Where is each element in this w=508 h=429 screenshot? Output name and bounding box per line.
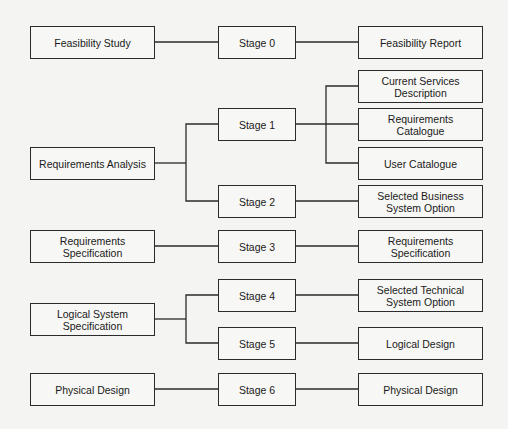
box-label: Physical Design — [55, 384, 130, 396]
box-label: Stage 4 — [239, 290, 275, 302]
stage-5-box: Stage 5 — [218, 327, 296, 360]
output-physical-design: Physical Design — [358, 373, 483, 406]
box-label: Logical System Specification — [57, 308, 128, 332]
output-current-services-description: Current Services Description — [358, 70, 483, 103]
stage-3-box: Stage 3 — [218, 230, 296, 263]
box-label: Stage 2 — [239, 196, 275, 208]
box-label: Stage 6 — [239, 384, 275, 396]
input-requirements-analysis: Requirements Analysis — [30, 147, 155, 180]
box-label: Requirements Specification — [388, 235, 453, 259]
box-label: Feasibility Study — [54, 37, 130, 49]
box-label: Stage 3 — [239, 241, 275, 253]
box-label: Stage 5 — [239, 338, 275, 350]
output-selected-business-system-option: Selected Business System Option — [358, 185, 483, 218]
box-label: Stage 1 — [239, 119, 275, 131]
stage-2-box: Stage 2 — [218, 185, 296, 218]
connector-lss-stages — [186, 295, 218, 343]
box-label: Logical Design — [386, 338, 455, 350]
box-label: Selected Technical System Option — [377, 284, 464, 308]
box-label: User Catalogue — [384, 158, 457, 170]
connector-reqanalysis-stages — [186, 124, 218, 201]
output-requirements-specification: Requirements Specification — [358, 230, 483, 263]
output-requirements-catalogue: Requirements Catalogue — [358, 108, 483, 141]
stage-1-box: Stage 1 — [218, 108, 296, 141]
box-label: Physical Design — [383, 384, 458, 396]
output-logical-design: Logical Design — [358, 327, 483, 360]
box-label: Selected Business System Option — [377, 190, 463, 214]
box-label: Current Services Description — [381, 75, 459, 99]
box-label: Requirements Specification — [60, 235, 125, 259]
output-selected-technical-system-option: Selected Technical System Option — [358, 279, 483, 312]
input-feasibility-study: Feasibility Study — [30, 26, 155, 59]
box-label: Requirements Analysis — [39, 158, 146, 170]
output-feasibility-report: Feasibility Report — [358, 26, 483, 59]
stage-0-box: Stage 0 — [218, 26, 296, 59]
input-requirements-specification: Requirements Specification — [30, 230, 155, 263]
output-user-catalogue: User Catalogue — [358, 147, 483, 180]
input-physical-design: Physical Design — [30, 373, 155, 406]
stage-6-box: Stage 6 — [218, 373, 296, 406]
stage-4-box: Stage 4 — [218, 279, 296, 312]
box-label: Stage 0 — [239, 37, 275, 49]
input-logical-system-specification: Logical System Specification — [30, 303, 155, 336]
box-label: Requirements Catalogue — [363, 113, 478, 137]
box-label: Feasibility Report — [380, 37, 461, 49]
